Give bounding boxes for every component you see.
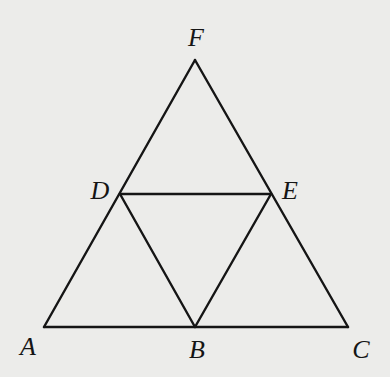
label-A: A	[18, 332, 36, 361]
segments	[44, 60, 348, 327]
label-C: C	[352, 335, 370, 364]
label-B: B	[189, 335, 205, 364]
label-E: E	[281, 176, 298, 205]
triangle-diagram: F D E A B C	[0, 0, 390, 377]
label-F: F	[187, 23, 205, 52]
segment-EB	[195, 194, 271, 327]
segment-DB	[120, 194, 195, 327]
label-D: D	[90, 176, 110, 205]
